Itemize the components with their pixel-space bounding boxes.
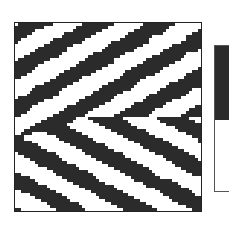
colorbar — [214, 45, 229, 192]
colorbar-light-segment — [215, 120, 229, 191]
binary-heatmap — [14, 22, 202, 212]
colorbar-dark-segment — [215, 46, 229, 120]
heatmap-canvas — [15, 23, 201, 211]
